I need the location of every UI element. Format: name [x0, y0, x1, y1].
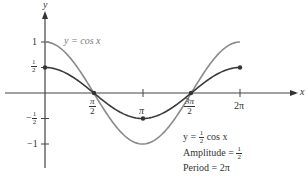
ytick-neg-1: −1 [27, 139, 38, 149]
ytick-1: 1 [32, 37, 37, 47]
xtick-3pi-half: 3π2 [184, 97, 195, 116]
ytick-neg-half: −12 [26, 111, 37, 126]
point-3pi-half [189, 91, 193, 95]
xtick-pi-half: π2 [89, 97, 96, 116]
y-axis-arrow-icon [42, 11, 48, 19]
point-2pi [238, 65, 242, 69]
half-cos-label: y = 12 cos x [183, 130, 227, 145]
x-axis-label: x [300, 87, 304, 97]
xtick-pi: π [139, 106, 144, 116]
xtick-2pi: 2π [234, 101, 244, 111]
chart-canvas [0, 0, 308, 180]
cos-label: y = cos x [64, 36, 100, 46]
y-axis-label: y [43, 0, 47, 10]
point-pi [141, 116, 145, 120]
point-start [43, 65, 47, 69]
x-axis-arrow-icon [290, 90, 298, 96]
period-label: Period = 2π [183, 163, 230, 173]
point-pi-half [92, 91, 96, 95]
ytick-half: 12 [31, 59, 37, 74]
amplitude-label: Amplitude = 12 [183, 146, 242, 161]
